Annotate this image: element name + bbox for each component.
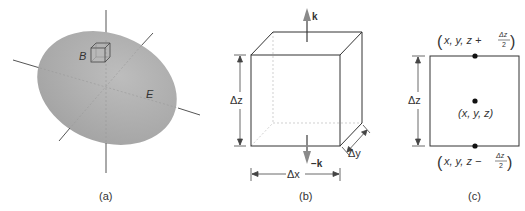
center-point	[472, 98, 477, 103]
paren-open: (	[437, 154, 443, 171]
caption-b: (b)	[299, 190, 312, 202]
divergence-figure: B E (a) k −k	[0, 0, 525, 211]
top-point-prefix: x, y, z +	[443, 34, 482, 46]
top-point-label: ( x, y, z + Δz 2 )	[437, 31, 515, 50]
bottom-point	[472, 143, 477, 148]
bottom-point-prefix: x, y, z −	[443, 155, 482, 167]
bottom-frac-num: Δz	[495, 152, 505, 159]
caption-c: (c)	[468, 190, 481, 202]
k-label: k	[312, 11, 318, 22]
x-axis-right	[178, 108, 200, 115]
top-point	[472, 53, 477, 58]
paren-close: )	[507, 154, 512, 171]
neg-k-arrow-icon	[303, 151, 311, 164]
panel-b: k −k Δz Δx Δy	[230, 8, 370, 202]
bottom-frac-den: 2	[499, 162, 503, 169]
cube	[251, 32, 362, 146]
top-frac-num: Δz	[498, 31, 508, 38]
bottom-point-label: ( x, y, z − Δz 2 )	[437, 152, 512, 171]
panel-c: Δz ( x, y, z + Δz 2 ) (x, y, z) ( x, y, …	[408, 31, 519, 202]
paren-open: (	[437, 33, 443, 50]
box-label: B	[79, 50, 86, 62]
surface-label: E	[146, 88, 154, 100]
ellipsoid-surface	[20, 11, 194, 165]
dx-label: Δx	[287, 168, 300, 180]
caption-a: (a)	[99, 190, 112, 202]
dz-label: Δz	[230, 94, 243, 106]
neg-k-label: −k	[311, 158, 323, 169]
y-axis-bottom	[59, 128, 70, 141]
top-frac-den: 2	[502, 41, 506, 48]
y-axis-top	[141, 33, 153, 46]
dy-label: Δy	[348, 147, 361, 159]
x-axis-left	[13, 60, 40, 68]
center-point-label: (x, y, z)	[458, 107, 494, 119]
paren-close: )	[510, 33, 515, 50]
dz-label-c: Δz	[408, 94, 421, 106]
k-arrow-icon	[303, 8, 311, 21]
panel-a: B E (a)	[13, 10, 200, 202]
